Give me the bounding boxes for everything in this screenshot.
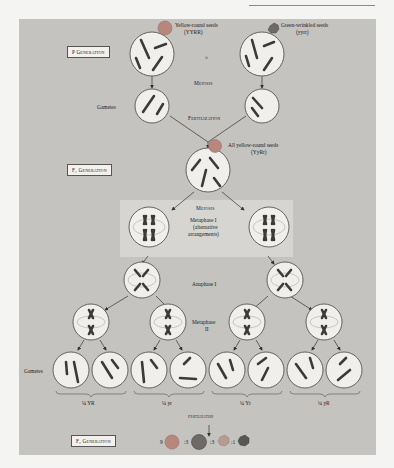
ratio-count-1: :1 bbox=[231, 439, 235, 445]
metaphase-1-label: Metaphase I bbox=[190, 217, 217, 223]
parent-left-genotype: (YYRR) bbox=[184, 29, 203, 35]
yellow-round-seed-icon bbox=[158, 21, 172, 35]
f1-caption: All yellow-round seeds bbox=[228, 142, 278, 148]
fertilization-label-f2: Fertilization bbox=[188, 414, 213, 420]
anaphase-1-label: Anaphase I bbox=[192, 281, 216, 287]
gamete-fraction-yr-mixed: ¼ Yr bbox=[240, 400, 251, 406]
f2-generation-label: F₂ Generation bbox=[71, 435, 116, 447]
metaphase-2-numeral: II bbox=[205, 326, 209, 332]
gamete-fraction-yr-upper: ¼ YR bbox=[82, 400, 95, 406]
f2-green-wrinkled-seed-icon bbox=[238, 435, 249, 446]
f1-seed-icon bbox=[209, 140, 222, 153]
f2-green-round-seed-icon bbox=[192, 435, 207, 450]
parent-left-caption: Yellow-round seeds bbox=[175, 22, 218, 28]
cross-symbol: × bbox=[205, 55, 208, 61]
p-generation-label: P Generation bbox=[67, 46, 110, 58]
gamete-fraction-yr-reverse: ¼ yR bbox=[318, 400, 330, 406]
gametes-label-p: Gametes bbox=[97, 104, 116, 110]
parent-right-genotype: (yyrr) bbox=[296, 29, 309, 35]
metaphase-1-note-line-2: arrangements) bbox=[188, 231, 219, 237]
ratio-count-9: 9 bbox=[160, 439, 163, 445]
fertilization-label-p: Fertilization bbox=[188, 115, 220, 121]
parent-right-caption: Green-wrinkled seeds bbox=[281, 22, 328, 28]
metaphase-2-label: Metaphase bbox=[192, 319, 215, 325]
green-wrinkled-seed-icon bbox=[268, 23, 279, 33]
f2-yellow-round-seed-icon bbox=[165, 435, 179, 449]
meiosis-label-p: Meiosis bbox=[194, 80, 213, 86]
f1-generation-label: F₁ Generation bbox=[67, 164, 112, 176]
f2-yellow-wrinkled-seed-icon bbox=[218, 435, 229, 446]
meiosis-label-f1: Meiosis bbox=[196, 205, 215, 211]
f1-genotype: (YyRr) bbox=[251, 149, 267, 155]
metaphase-1-note-line-1: (alternative bbox=[193, 224, 218, 230]
ratio-count-3b: :3 bbox=[210, 439, 214, 445]
ratio-count-3a: :3 bbox=[184, 439, 188, 445]
gamete-fraction-yr-lower: ¼ yr bbox=[162, 400, 172, 406]
gametes-label-f1: Gametes bbox=[24, 368, 43, 374]
